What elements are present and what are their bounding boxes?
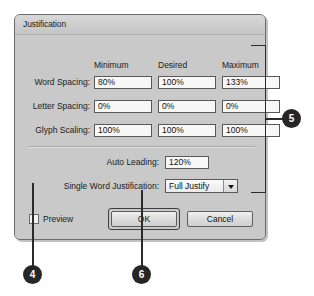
preview-checkbox[interactable] bbox=[29, 214, 39, 224]
preview-label: Preview bbox=[43, 214, 73, 224]
callout-bracket-5 bbox=[251, 45, 266, 193]
single-word-justification-select[interactable]: Full Justify bbox=[165, 179, 238, 193]
section-divider bbox=[27, 146, 255, 148]
column-header-minimum: Minimum bbox=[94, 60, 128, 70]
auto-leading-label: Auto Leading: bbox=[67, 157, 159, 167]
callout-badge-5: 5 bbox=[282, 109, 301, 128]
cancel-button[interactable]: Cancel bbox=[187, 211, 253, 227]
row-label-glyph-scaling: Glyph Scaling: bbox=[0, 125, 90, 135]
single-word-justification-label: Single Word Justification: bbox=[29, 181, 159, 191]
dialog-body: Minimum Desired Maximum Word Spacing: 80… bbox=[15, 36, 265, 239]
ok-button[interactable]: OK bbox=[111, 211, 177, 227]
dialog-title: Justification bbox=[23, 19, 66, 29]
glyph-scaling-minimum-input[interactable]: 100% bbox=[94, 124, 152, 137]
single-word-justification-value: Full Justify bbox=[169, 181, 209, 191]
word-spacing-minimum-input[interactable]: 80% bbox=[94, 76, 152, 89]
row-label-letter-spacing: Letter Spacing: bbox=[0, 101, 90, 111]
callout-badge-4: 4 bbox=[23, 265, 42, 284]
letter-spacing-desired-input[interactable]: 0% bbox=[158, 100, 216, 113]
chevron-down-icon[interactable] bbox=[223, 180, 237, 192]
dialog-titlebar[interactable]: Justification bbox=[15, 15, 265, 35]
row-label-word-spacing: Word Spacing: bbox=[0, 77, 90, 87]
word-spacing-desired-input[interactable]: 100% bbox=[158, 76, 216, 89]
callout-leader-line-4 bbox=[32, 183, 34, 267]
callout-badge-6: 6 bbox=[132, 265, 151, 284]
justification-dialog: Justification Minimum Desired Maximum Wo… bbox=[14, 14, 266, 240]
letter-spacing-minimum-input[interactable]: 0% bbox=[94, 100, 152, 113]
column-header-desired: Desired bbox=[158, 60, 187, 70]
auto-leading-input[interactable]: 120% bbox=[165, 156, 209, 169]
glyph-scaling-desired-input[interactable]: 100% bbox=[158, 124, 216, 137]
callout-leader-line-6 bbox=[141, 190, 143, 267]
